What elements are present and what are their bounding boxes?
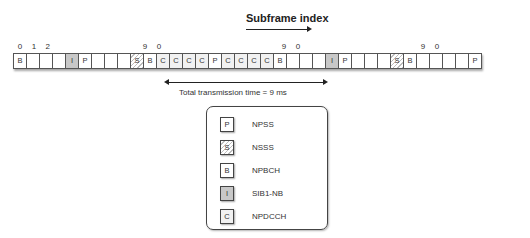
subframe-cell: I [325,53,339,69]
subframe-cell [286,53,300,69]
subframe-cell: S [130,53,144,69]
subframe-cell [299,53,313,69]
subframe-cell [39,53,53,69]
legend-swatch: I [220,186,234,201]
legend: PNPSSSNSSSBNPBCHISIB1-NBCNPDCCH [206,106,328,230]
subframe-cell [455,53,469,69]
legend-label: NPDCCH [252,212,286,221]
legend-label: NSSS [252,143,274,152]
subframe-cell: B [143,53,157,69]
legend-item: ISIB1-NB [220,185,283,201]
subframe-cell [91,53,105,69]
subframe-cell [351,53,365,69]
subframe-cell: I [65,53,79,69]
right-arrow-icon [246,29,310,30]
transmission-time-label: Total transmission time = 9 ms [179,88,287,97]
legend-item: BNPBCH [220,162,280,178]
subframe-cell: C [247,53,261,69]
legend-item: PNPSS [220,116,274,132]
subframe-cell [442,53,456,69]
subframe-cell [416,53,430,69]
subframe-cell: P [78,53,92,69]
subframe-index: 9 [138,42,152,51]
subframe-cell [429,53,443,69]
subframe-index: 0 [13,42,27,51]
subframe-cell: C [195,53,209,69]
subframe-cell [117,53,131,69]
subframe-cell [312,53,326,69]
subframe-cell: P [338,53,352,69]
double-arrow-icon [166,82,326,83]
subframe-index: 9 [277,42,291,51]
legend-swatch: S [220,140,234,155]
subframe-cell: P [468,53,482,69]
subframe-cell [364,53,378,69]
legend-swatch: B [220,163,234,178]
subframe-cell [377,53,391,69]
diagram-title: Subframe index [246,12,329,24]
subframe-index: 0 [291,42,305,51]
subframe-cell: B [273,53,287,69]
subframe-cell [104,53,118,69]
subframe-index: 1 [27,42,41,51]
subframe-index: 0 [152,42,166,51]
legend-item: CNPDCCH [220,208,286,224]
legend-item: SNSSS [220,139,274,155]
legend-label: NPBCH [252,166,280,175]
subframe-cell [52,53,66,69]
subframe-cell: S [390,53,404,69]
subframe-cell: C [156,53,170,69]
subframe-cell: C [260,53,274,69]
subframe-cell: C [169,53,183,69]
subframe-cell: B [13,53,27,69]
legend-label: SIB1-NB [252,189,283,198]
subframe-cell: P [208,53,222,69]
legend-swatch: C [220,209,234,224]
legend-swatch: P [220,117,234,132]
subframe-index: 0 [430,42,444,51]
subframe-cell [26,53,40,69]
subframe-cell: C [234,53,248,69]
subframe-index: 2 [41,42,55,51]
subframe-cell: C [221,53,235,69]
legend-label: NPSS [252,120,274,129]
subframe-cell: B [403,53,417,69]
subframe-index: 9 [416,42,430,51]
subframe-cell: C [182,53,196,69]
subframe-row: BIPSBCCCCPCCCCBIPSBP [13,53,482,69]
